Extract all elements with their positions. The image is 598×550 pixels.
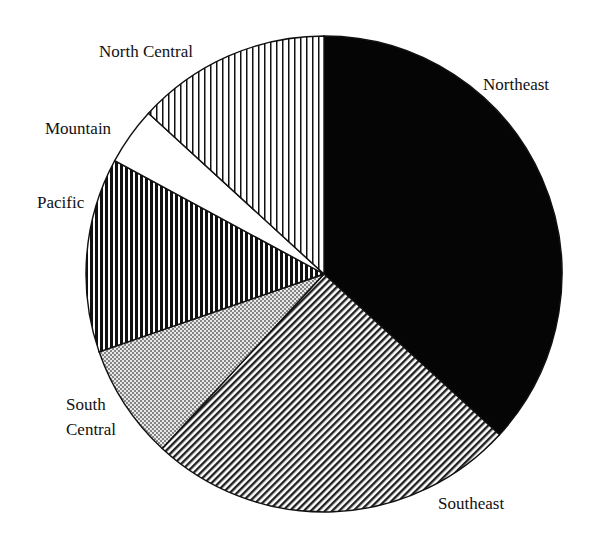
- label-south-central-line1: South: [66, 395, 106, 415]
- label-mountain: Mountain: [45, 119, 111, 139]
- label-south-central-line2: Central: [66, 420, 116, 440]
- label-northeast: Northeast: [483, 75, 549, 95]
- label-north-central: North Central: [99, 42, 193, 62]
- label-pacific: Pacific: [37, 193, 84, 213]
- pie-slices: [86, 36, 562, 512]
- label-southeast: Southeast: [438, 494, 504, 514]
